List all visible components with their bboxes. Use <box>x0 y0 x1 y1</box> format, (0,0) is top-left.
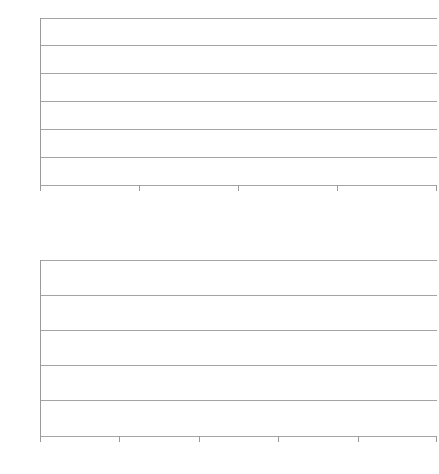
chart-banks-now <box>0 220 439 474</box>
chart-bottom-plot <box>0 220 439 474</box>
gridlines-top <box>40 18 437 185</box>
x-ticks-bottom <box>41 436 437 442</box>
chart-banks-then <box>0 0 439 220</box>
chart-top-plot <box>0 0 439 220</box>
gridlines-bottom <box>40 260 437 436</box>
x-ticks-top <box>41 185 437 191</box>
